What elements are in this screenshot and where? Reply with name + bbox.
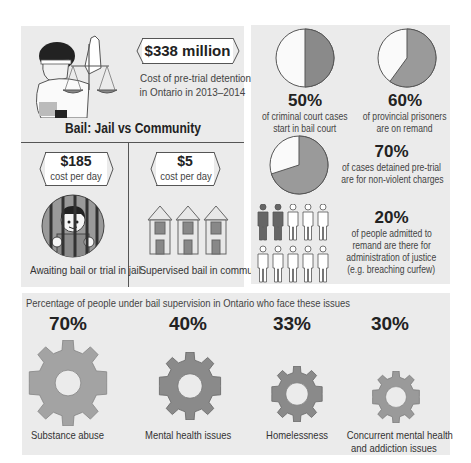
jail-cost-ribbon: $185 cost per day [45, 152, 107, 186]
stat-50: 50% of criminal court cases start in bai… [251, 91, 359, 135]
issue-1-percent: 70% [28, 313, 108, 336]
issue-3-label: Homelessness [252, 429, 342, 442]
gear-medium-icon [156, 352, 224, 420]
stat-70: 70% of cases detained pre-trial are for … [333, 142, 450, 186]
headline-amount: $338 million [142, 39, 233, 63]
ribbon-right-notch [232, 38, 240, 64]
people-pictogram-icon [256, 204, 332, 284]
gear-large-icon [25, 340, 111, 426]
community-cost-unit: cost per day [160, 169, 212, 183]
jail-caption: Awaiting bail or trial in jail [21, 264, 128, 278]
issues-panel: Percentage of people under bail supervis… [22, 293, 450, 455]
community-cost-amount: $5 [156, 153, 214, 169]
pie-50-icon [275, 28, 335, 88]
headline-description: Cost of pre-trial detention in Ontario i… [131, 72, 249, 100]
divider-horizontal [21, 142, 244, 143]
community-caption: Supervised bail in community [129, 264, 244, 278]
ribbon-right-notch [213, 152, 221, 186]
gear-small-icon [269, 366, 325, 422]
issue-2-percent: 40% [148, 313, 228, 336]
stat-20: 20% of people admitted to remand are the… [333, 208, 450, 276]
gear-smallest-icon [370, 371, 422, 423]
issue-4-percent: 30% [350, 313, 430, 336]
issue-2-label: Mental health issues [138, 429, 238, 442]
ribbon-left-notch [136, 38, 144, 64]
community-cost-ribbon: $5 cost per day [156, 152, 214, 186]
issue-3-percent: 33% [252, 313, 332, 336]
issue-1-label: Substance abuse [22, 429, 114, 442]
lady-justice-icon [29, 34, 124, 118]
issue-4-label: Concurrent mental health and addiction i… [338, 429, 450, 455]
issues-title: Percentage of people under bail supervis… [26, 297, 403, 309]
headline-ribbon: $338 million [142, 38, 233, 64]
pie-70-icon [269, 135, 329, 195]
jailed-person-icon [41, 194, 105, 258]
pie-60-icon [377, 28, 437, 88]
comparison-title: Bail: Jail vs Community [21, 120, 244, 137]
jail-cost-amount: $185 [45, 153, 107, 169]
jail-cost-unit: cost per day [50, 169, 102, 183]
ribbon-left-notch [39, 152, 47, 186]
cost-panel: $338 million Cost of pre-trial detention… [21, 26, 244, 287]
stat-60: 60% of provincial prisoners are on reman… [351, 91, 459, 135]
ribbon-right-notch [106, 152, 114, 186]
stats-panel: 50% of criminal court cases start in bai… [251, 25, 450, 284]
ribbon-left-notch [150, 152, 158, 186]
houses-icon [146, 204, 230, 256]
